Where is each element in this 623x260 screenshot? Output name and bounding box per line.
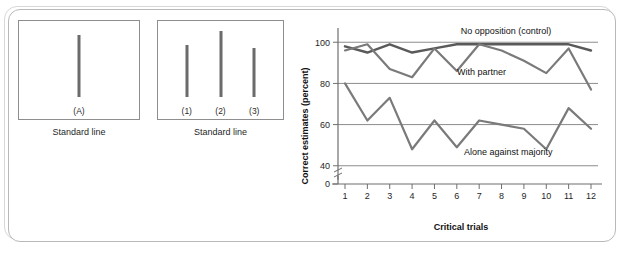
comparison-label-3: (3) — [249, 107, 259, 116]
series-labels-group: No opposition (control)With partnerAlone… — [457, 26, 553, 157]
x-axis-title: Critical trials — [434, 222, 489, 232]
x-tick-label-10: 10 — [541, 191, 551, 201]
x-tick-label-5: 5 — [432, 191, 437, 201]
x-tick-label-3: 3 — [387, 191, 392, 201]
comparison-label-1: (1) — [182, 107, 192, 116]
axes-group — [332, 28, 602, 189]
x-tick-label-6: 6 — [454, 191, 459, 201]
chart-svg: No opposition (control)With partnerAlone… — [296, 16, 608, 234]
x-tick-label-11: 11 — [564, 191, 573, 201]
y-tick-label-60: 60 — [320, 120, 330, 130]
comparison-line-1 — [185, 45, 188, 97]
x-tick-label-12: 12 — [586, 191, 596, 201]
x-tick-label-1: 1 — [342, 191, 347, 201]
results-line-chart: No opposition (control)With partnerAlone… — [296, 16, 608, 234]
comparison-lines-caption: Standard line — [157, 128, 284, 137]
comparison-line-3 — [253, 48, 256, 97]
comparison-line-2 — [219, 31, 222, 97]
x-tick-label-9: 9 — [521, 191, 526, 201]
data-series-group — [345, 44, 591, 149]
standard-line-panel: (A) — [18, 20, 140, 120]
standard-line-caption: Standard line — [18, 128, 140, 137]
standard-line-1 — [78, 35, 81, 97]
y-tick-label-0: 0 — [325, 179, 330, 189]
series-label-alone-against-majority: Alone against majority — [464, 147, 553, 157]
standard-label-1: (A) — [73, 107, 84, 116]
x-tick-label-7: 7 — [477, 191, 482, 201]
series-line-alone-against-majority — [345, 83, 591, 149]
x-tick-label-4: 4 — [410, 191, 415, 201]
comparison-label-2: (2) — [215, 107, 225, 116]
series-label-with-partner: With partner — [457, 67, 506, 77]
tick-labels-group: 0406080100123456789101112 — [315, 38, 596, 201]
x-tick-label-2: 2 — [365, 191, 370, 201]
asch-experiment-figure: (A) Standard line (1)(2)(3) Standard lin… — [0, 0, 623, 260]
y-tick-label-100: 100 — [315, 38, 330, 48]
comparison-lines-panel: (1)(2)(3) — [157, 20, 284, 120]
x-tick-label-8: 8 — [499, 191, 504, 201]
series-line-no-opposition-control — [345, 44, 591, 52]
series-label-no-opposition-control: No opposition (control) — [461, 26, 552, 36]
y-tick-label-80: 80 — [320, 79, 330, 89]
y-tick-label-40: 40 — [320, 161, 330, 171]
y-axis-title: Correct estimates (percent) — [300, 67, 310, 184]
